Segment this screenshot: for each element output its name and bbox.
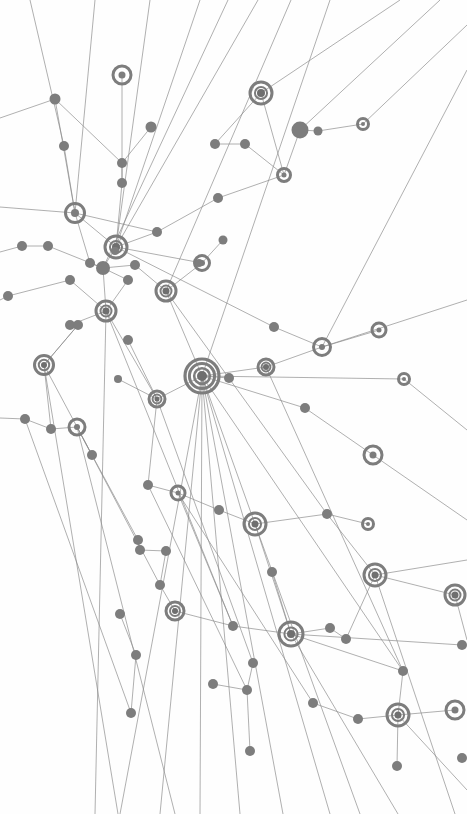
graph-node-dot[interactable] [398, 666, 408, 676]
graph-node-dot[interactable] [457, 753, 467, 763]
graph-node-dot[interactable] [20, 414, 30, 424]
graph-node-dot[interactable] [43, 241, 53, 251]
graph-node-dot[interactable] [65, 275, 75, 285]
node-circle [224, 373, 234, 383]
node-circle [50, 94, 61, 105]
graph-node-dot[interactable] [155, 580, 165, 590]
node-circle [117, 178, 127, 188]
node-circle [133, 535, 143, 545]
node-circle [87, 450, 97, 460]
graph-node-dot[interactable] [161, 546, 171, 556]
node-circle [269, 322, 279, 332]
node-circle [210, 139, 220, 149]
node-circle [161, 546, 171, 556]
graph-node-dot[interactable] [46, 424, 56, 434]
graph-node-dot[interactable] [152, 227, 162, 237]
graph-node-dot[interactable] [208, 679, 218, 689]
graph-node-dot[interactable] [131, 650, 141, 660]
node-circle [319, 344, 325, 350]
graph-node-dot[interactable] [50, 94, 61, 105]
node-circle [240, 139, 250, 149]
node-circle [267, 567, 277, 577]
graph-node-dot[interactable] [214, 505, 224, 515]
node-circle [214, 505, 224, 515]
node-circle [155, 580, 165, 590]
node-circle [314, 127, 323, 136]
graph-node-dot[interactable] [133, 535, 143, 545]
graph-node-dot[interactable] [228, 621, 238, 631]
graph-node-dot[interactable] [123, 335, 133, 345]
graph-node-dot[interactable] [73, 320, 83, 330]
graph-node-dot[interactable] [392, 761, 402, 771]
node-circle [103, 308, 110, 315]
node-circle [115, 609, 125, 619]
node-circle [17, 241, 27, 251]
graph-node-dot[interactable] [308, 698, 318, 708]
graph-node-dot[interactable] [213, 193, 223, 203]
graph-node-dot[interactable] [292, 122, 309, 139]
node-circle [242, 685, 252, 695]
graph-node-dot[interactable] [85, 258, 95, 268]
graph-node-dot[interactable] [245, 746, 255, 756]
node-circle [392, 761, 402, 771]
graph-node-dot[interactable] [325, 623, 335, 633]
node-circle [361, 122, 365, 126]
graph-node-dot[interactable] [114, 375, 122, 383]
node-circle [3, 291, 13, 301]
node-circle [96, 261, 110, 275]
node-circle [287, 630, 295, 638]
node-circle [41, 362, 47, 368]
graph-node-dot[interactable] [353, 714, 363, 724]
node-circle [130, 260, 140, 270]
graph-node-dot[interactable] [59, 141, 69, 151]
node-circle [123, 335, 133, 345]
graph-node-dot[interactable] [96, 261, 110, 275]
graph-node-dot[interactable] [269, 322, 279, 332]
graph-node-dot[interactable] [115, 609, 125, 619]
graph-node-dot[interactable] [300, 403, 310, 413]
node-circle [195, 259, 203, 267]
network-graph-svg [0, 0, 467, 814]
graph-node-dot[interactable] [87, 450, 97, 460]
node-circle [341, 634, 351, 644]
node-circle [263, 364, 269, 370]
graph-node-dot[interactable] [242, 685, 252, 695]
graph-node-dot[interactable] [126, 708, 136, 718]
graph-node-dot[interactable] [143, 480, 153, 490]
node-circle [452, 707, 459, 714]
graph-node-dot[interactable] [341, 634, 351, 644]
node-circle [353, 714, 363, 724]
node-circle [111, 247, 119, 255]
node-circle [398, 666, 408, 676]
graph-node-dot[interactable] [224, 373, 234, 383]
graph-node-dot[interactable] [3, 291, 13, 301]
node-circle [292, 122, 309, 139]
graph-node-dot[interactable] [117, 158, 127, 168]
canvas-background [0, 0, 467, 814]
graph-node-dot[interactable] [219, 236, 228, 245]
node-circle [252, 521, 259, 528]
graph-node-dot[interactable] [146, 122, 157, 133]
graph-node-dot[interactable] [457, 640, 467, 650]
graph-node-dot[interactable] [123, 275, 133, 285]
node-circle [119, 72, 126, 79]
graph-node-dot[interactable] [322, 509, 332, 519]
graph-node-dot[interactable] [210, 139, 220, 149]
node-circle [73, 320, 83, 330]
graph-node-dot[interactable] [130, 260, 140, 270]
graph-node-dot[interactable] [135, 545, 145, 555]
graph-node-dot[interactable] [111, 247, 119, 255]
graph-node-dot[interactable] [314, 127, 323, 136]
graph-node-hub[interactable] [185, 359, 219, 393]
graph-node-dot[interactable] [117, 178, 127, 188]
graph-node-dot[interactable] [17, 241, 27, 251]
node-circle [43, 241, 53, 251]
graph-node-dot[interactable] [248, 658, 258, 668]
node-circle [208, 679, 218, 689]
node-circle [20, 414, 30, 424]
graph-node-dot[interactable] [240, 139, 250, 149]
network-graph-canvas [0, 0, 467, 814]
graph-node-dot[interactable] [195, 259, 203, 267]
node-circle [143, 480, 153, 490]
graph-node-dot[interactable] [267, 567, 277, 577]
